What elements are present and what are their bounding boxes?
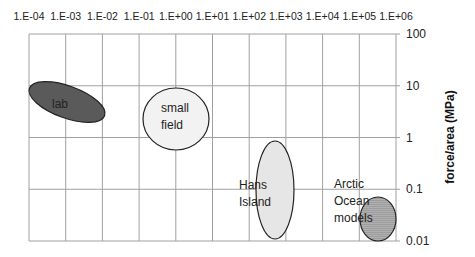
- x-tick-label: 1.E+04: [306, 10, 340, 22]
- region-hans-island: Hans Island: [239, 141, 294, 239]
- label-small-field-2: field: [161, 118, 183, 132]
- y-tick-label: 0.1: [406, 182, 423, 196]
- y-tick-label: 100: [406, 27, 426, 41]
- label-small-field-1: small: [161, 101, 189, 115]
- x-tick-label: 1.E+01: [196, 10, 230, 22]
- x-tick-label: 1.E+05: [343, 10, 377, 22]
- x-tick-label: 1.E+06: [379, 10, 413, 22]
- x-tick-label: 1.E-03: [50, 10, 81, 22]
- chart: 1.E-041.E-031.E-021.E-011.E+001.E+011.E+…: [0, 0, 475, 257]
- grid: [29, 34, 400, 241]
- x-tick-label: 1.E-02: [87, 10, 118, 22]
- label-arctic-3: models: [334, 211, 373, 225]
- x-tick-label: 1.E+03: [269, 10, 303, 22]
- region-lab: lab: [24, 73, 110, 130]
- x-axis-ticks: 1.E-041.E-031.E-021.E-011.E+001.E+011.E+…: [14, 10, 413, 22]
- y-axis-ticks: 1001010.10.01: [406, 27, 430, 248]
- label-arctic-2: Ocean: [334, 194, 369, 208]
- x-tick-label: 1.E-04: [14, 10, 45, 22]
- label-lab: lab: [52, 97, 68, 111]
- region-arctic-ocean-models: Arctic Ocean models: [334, 177, 396, 241]
- label-hans-island-1: Hans: [239, 178, 267, 192]
- region-small-field: small field: [143, 88, 209, 150]
- y-axis-label: force/area (MPa): [443, 90, 457, 183]
- x-tick-label: 1.E-01: [124, 10, 155, 22]
- y-tick-label: 0.01: [406, 234, 430, 248]
- x-tick-label: 1.E+00: [159, 10, 193, 22]
- y-tick-label: 10: [406, 79, 420, 93]
- label-hans-island-2: Island: [239, 195, 271, 209]
- y-tick-label: 1: [406, 131, 413, 145]
- label-arctic-1: Arctic: [334, 177, 364, 191]
- x-tick-label: 1.E+02: [232, 10, 266, 22]
